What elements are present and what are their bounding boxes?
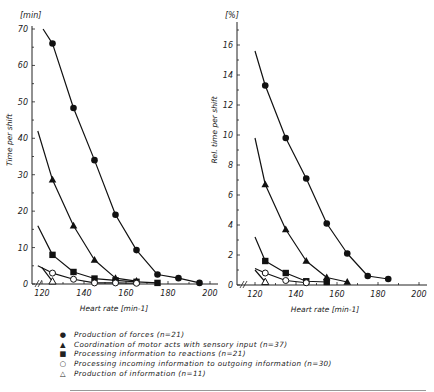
filled-triangle-marker	[49, 176, 57, 183]
y-unit-label: [%]	[225, 11, 239, 20]
x-axis-title: Heart rate [min-1]	[80, 304, 148, 313]
y-tick-label: 14	[223, 71, 233, 80]
y-tick-label: 2	[228, 251, 233, 260]
legend-label: Coordination of motor acts with sensory …	[74, 340, 287, 349]
open-circle-marker	[50, 270, 56, 276]
y-unit-label: [min]	[20, 11, 41, 20]
legend-label: Production of forces (n=21)	[74, 330, 184, 339]
filled-circle-marker	[70, 105, 77, 112]
legend-item-production-of-forces: ● Production of forces (n=21)	[52, 330, 332, 340]
legend: ● Production of forces (n=21) ▲ Coordina…	[52, 330, 332, 378]
filled-circle-marker	[133, 247, 140, 254]
x-tick-label: 180	[370, 290, 385, 299]
x-tick-label: 180	[160, 289, 175, 298]
open-circle-marker	[134, 280, 140, 286]
series-line	[43, 29, 199, 283]
x-tick-label: 160	[329, 290, 344, 299]
filled-circle-marker	[262, 82, 269, 89]
y-tick-label: 12	[223, 101, 233, 110]
filled-triangle-marker	[302, 257, 310, 264]
filled-triangle-marker	[282, 226, 290, 233]
filled-circle-marker	[196, 280, 203, 287]
filled-circle-marker	[344, 250, 351, 257]
filled-circle-icon: ●	[52, 330, 74, 339]
y-tick-label: 70	[18, 25, 28, 34]
filled-square-marker	[49, 252, 55, 258]
open-triangle-icon: △	[52, 369, 74, 378]
y-tick-label: 6	[228, 191, 233, 200]
y-tick-label: 10	[18, 244, 28, 253]
x-tick-label: 200	[411, 290, 426, 299]
open-circle-marker	[113, 280, 119, 286]
filled-triangle-marker	[91, 256, 99, 263]
filled-triangle-marker	[70, 222, 78, 229]
x-tick-label: 200	[202, 289, 217, 298]
y-tick-label: 10	[223, 131, 233, 140]
x-tick-label: 160	[118, 289, 133, 298]
series-line	[255, 138, 347, 282]
open-circle-marker	[303, 280, 309, 286]
filled-square-marker	[324, 279, 330, 285]
open-circle-marker	[92, 280, 98, 286]
y-tick-label: 8	[228, 161, 233, 170]
open-circle-icon: ○	[52, 359, 74, 368]
filled-circle-marker	[112, 211, 119, 218]
series-line	[255, 51, 388, 279]
filled-square-icon: ■	[52, 349, 74, 358]
filled-circle-marker	[154, 271, 161, 278]
filled-square-marker	[262, 258, 268, 264]
left-chart-time-per-shift: 010203040506070120140160180200[min]Time …	[5, 11, 218, 313]
open-circle-marker	[71, 276, 77, 282]
legend-label: Processing information to reactions (n=2…	[74, 349, 246, 358]
filled-circle-marker	[49, 40, 56, 47]
filled-triangle-marker	[261, 181, 269, 188]
legend-item-processing-incoming-outgoing: ○ Processing incoming information to out…	[52, 359, 332, 369]
y-axis-title: Rel. time per shift	[210, 95, 219, 163]
filled-square-marker	[283, 270, 289, 276]
x-tick-label: 140	[76, 289, 91, 298]
x-axis-title: Heart rate [min-1]	[291, 305, 359, 314]
x-tick-label: 120	[247, 290, 262, 299]
y-tick-label: 60	[18, 61, 28, 70]
bottom-divider	[70, 390, 426, 391]
filled-triangle-icon: ▲	[52, 340, 74, 349]
filled-circle-marker	[323, 220, 330, 227]
filled-square-marker	[70, 269, 76, 275]
legend-item-production-of-information: △ Production of information (n=11)	[52, 368, 332, 378]
filled-circle-marker	[303, 175, 310, 182]
filled-square-marker	[154, 280, 160, 286]
filled-circle-marker	[91, 157, 98, 164]
legend-label: Processing incoming information to outgo…	[74, 359, 332, 368]
y-tick-label: 30	[18, 171, 28, 180]
legend-item-coordination-motor-acts: ▲ Coordination of motor acts with sensor…	[52, 340, 332, 350]
open-circle-marker	[262, 270, 268, 276]
y-tick-label: 16	[223, 41, 233, 50]
legend-label: Production of information (n=11)	[74, 369, 206, 378]
y-tick-label: 0	[23, 280, 28, 289]
filled-circle-marker	[364, 273, 371, 280]
y-tick-label: 4	[228, 221, 233, 230]
filled-circle-marker	[385, 276, 392, 283]
y-tick-label: 0	[228, 281, 233, 290]
filled-circle-marker	[175, 275, 182, 282]
x-tick-label: 140	[288, 290, 303, 299]
x-tick-label: 120	[34, 289, 49, 298]
open-circle-marker	[283, 278, 289, 284]
series-line	[38, 131, 137, 281]
y-tick-label: 50	[18, 98, 28, 107]
y-tick-label: 20	[18, 207, 28, 216]
legend-item-processing-to-reactions: ■ Processing information to reactions (n…	[52, 349, 332, 359]
right-chart-relative-time-per-shift: 0246810121416120140160180200[%]Rel. time…	[210, 11, 427, 314]
y-tick-label: 40	[18, 134, 28, 143]
y-axis-title: Time per shift	[5, 113, 14, 166]
filled-circle-marker	[282, 135, 289, 142]
